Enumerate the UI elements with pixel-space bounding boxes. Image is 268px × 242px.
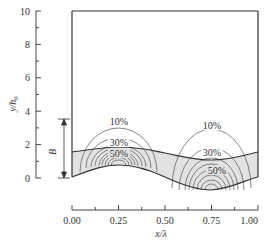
x-tick-0: 0.00 bbox=[63, 215, 81, 226]
x-axis bbox=[72, 205, 258, 210]
right-10-label: 10% bbox=[203, 120, 221, 131]
right-50-label: 50% bbox=[208, 165, 226, 176]
y-tick-10: 10 bbox=[20, 6, 30, 17]
x-axis-label: x/λ bbox=[154, 228, 167, 239]
b-label: B bbox=[47, 149, 58, 155]
y-tick-0: 0 bbox=[25, 173, 30, 184]
y-axis-label: y/h0 bbox=[7, 96, 20, 113]
x-tick-050: 0.50 bbox=[156, 215, 174, 226]
x-tick-1: 1.00 bbox=[241, 215, 259, 226]
left-30-label: 30% bbox=[110, 137, 128, 148]
left-50-label: 50% bbox=[110, 148, 128, 159]
y-tick-2: 2 bbox=[25, 139, 30, 150]
y-tick-8: 8 bbox=[25, 39, 30, 50]
y-tick-6: 6 bbox=[25, 72, 30, 83]
right-30-label: 30% bbox=[203, 147, 221, 158]
chart: 10 8 6 4 2 0 y/h0 0.00 0.25 0.50 0.75 1.… bbox=[0, 0, 268, 242]
b-dimension-marker bbox=[58, 119, 70, 178]
x-tick-075: 0.75 bbox=[203, 215, 221, 226]
y-axis bbox=[36, 11, 41, 178]
left-10-label: 10% bbox=[110, 116, 128, 127]
x-tick-025: 0.25 bbox=[110, 215, 128, 226]
y-tick-4: 4 bbox=[25, 106, 30, 117]
svg-text:y/h0: y/h0 bbox=[7, 96, 20, 113]
